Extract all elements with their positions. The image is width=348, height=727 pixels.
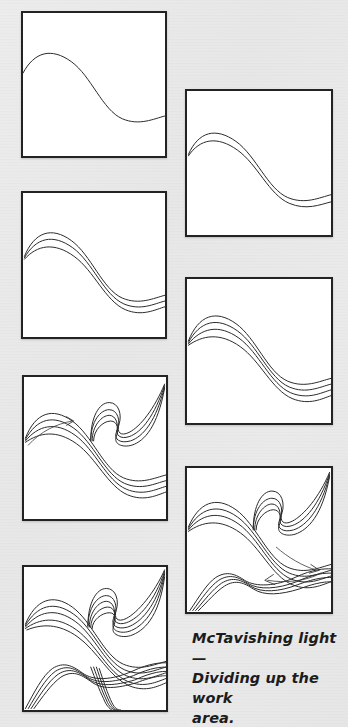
step-panel-1: [21, 11, 167, 158]
step-6-drawing: [187, 468, 331, 612]
caption-line-3: area.: [192, 708, 342, 727]
step-7-drawing: [24, 567, 166, 710]
step-panel-2: [185, 89, 333, 237]
caption-line-1: McTavishing light —: [192, 628, 342, 668]
step-2-drawing: [187, 91, 331, 235]
step-panel-7: [22, 565, 168, 712]
step-3-drawing: [23, 193, 165, 337]
step-5-drawing: [24, 377, 166, 519]
step-panel-5: [22, 375, 168, 521]
step-panel-3: [21, 191, 167, 339]
step-panel-6: [185, 466, 333, 614]
instruction-sheet: McTavishing light — Dividing up the work…: [0, 0, 348, 727]
step-1-drawing: [23, 13, 165, 156]
step-panel-4: [185, 277, 333, 425]
caption-line-2: Dividing up the work: [192, 668, 342, 708]
step-4-drawing: [187, 279, 331, 423]
figure-caption: McTavishing light — Dividing up the work…: [192, 628, 342, 727]
